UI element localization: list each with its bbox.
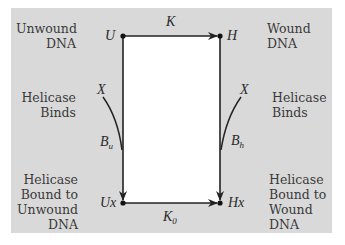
node-ux-label: Ux bbox=[100, 196, 116, 210]
rate-bh-label: Bh bbox=[231, 134, 244, 152]
node-h-label: H bbox=[227, 29, 237, 43]
label-line: Helicase bbox=[16, 172, 78, 187]
inner-rectangle bbox=[123, 36, 220, 203]
label-line: Wound bbox=[267, 21, 327, 36]
label-helicase-binds-right: Helicase Binds bbox=[272, 90, 332, 120]
label-wound-dna: Wound DNA bbox=[267, 21, 327, 51]
label-unwound-dna: Unwound DNA bbox=[16, 21, 76, 51]
label-line: Unwound bbox=[16, 21, 76, 36]
rate-k-label: K bbox=[166, 15, 175, 29]
node-u-label: U bbox=[105, 29, 115, 43]
label-line: DNA bbox=[16, 36, 76, 51]
label-line: Helicase bbox=[272, 90, 332, 105]
label-helicase-binds-left: Helicase Binds bbox=[16, 90, 76, 120]
label-line: DNA bbox=[269, 217, 331, 232]
label-line: Binds bbox=[16, 105, 76, 120]
rate-bu-label: Bu bbox=[100, 135, 113, 153]
rate-k0-label: K0 bbox=[163, 210, 177, 228]
x-left-label: X bbox=[97, 83, 106, 97]
label-line: Bound to bbox=[16, 187, 78, 202]
node-hx-dot bbox=[217, 200, 222, 205]
label-line: Helicase bbox=[269, 172, 331, 187]
label-helicase-bound-wound: Helicase Bound to Wound DNA bbox=[269, 172, 331, 232]
node-h-dot bbox=[217, 33, 222, 38]
node-ux-dot bbox=[120, 200, 125, 205]
x-right-label: X bbox=[240, 83, 249, 97]
label-line: Bound to bbox=[269, 187, 331, 202]
label-line: Binds bbox=[272, 105, 332, 120]
label-line: Unwound bbox=[16, 202, 78, 217]
label-line: DNA bbox=[267, 36, 327, 51]
node-u-dot bbox=[120, 33, 125, 38]
label-line: Helicase bbox=[16, 90, 76, 105]
label-helicase-bound-unwound: Helicase Bound to Unwound DNA bbox=[16, 172, 78, 232]
label-line: DNA bbox=[16, 217, 78, 232]
label-line: Wound bbox=[269, 202, 331, 217]
node-hx-label: Hx bbox=[228, 196, 244, 210]
